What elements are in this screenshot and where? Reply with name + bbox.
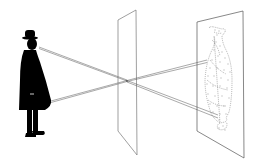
pinhole-diagram — [0, 0, 255, 166]
inverted-image-fill — [206, 29, 230, 130]
man-figure — [19, 30, 51, 137]
pinhole-pane — [118, 10, 137, 155]
light-rays-outgoing — [127, 60, 218, 118]
light-rays-incoming — [39, 47, 127, 103]
